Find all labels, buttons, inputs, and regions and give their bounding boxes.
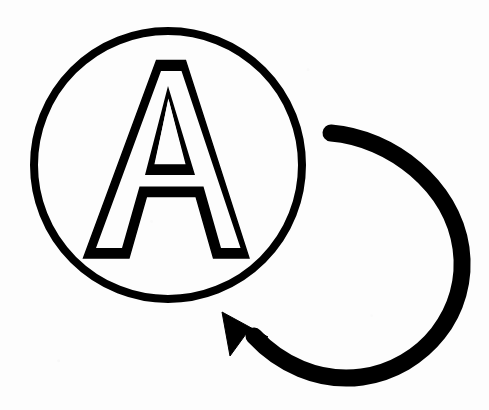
- icon-artwork: [0, 0, 489, 410]
- icon-canvas: Letter A in circle with circular refresh…: [0, 0, 489, 410]
